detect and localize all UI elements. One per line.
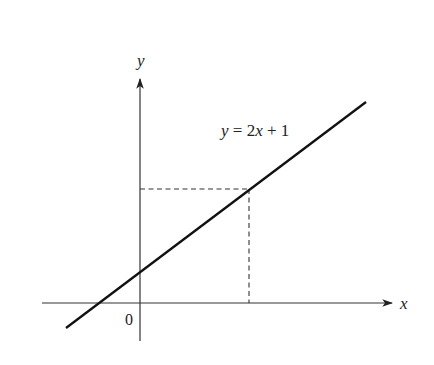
equation-lhs: y	[219, 121, 229, 140]
y-axis-label: y	[135, 51, 145, 70]
equation-eq: = 2	[229, 121, 256, 140]
x-axis-label: x	[399, 294, 408, 313]
equation-label: y = 2x + 1	[219, 121, 289, 140]
graph-line	[66, 102, 366, 328]
origin-label: 0	[125, 311, 133, 328]
line-graph-figure: y x 0 y = 2x + 1	[0, 0, 434, 365]
equation-rest: + 1	[263, 121, 290, 140]
